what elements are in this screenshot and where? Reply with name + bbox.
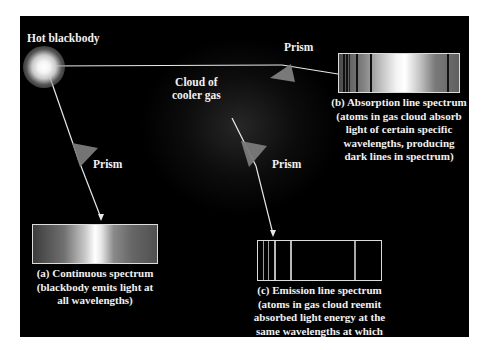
- caption-line: (atoms in gas cloud absorb: [325, 110, 469, 124]
- ray-to-emission: [256, 166, 273, 234]
- emission-line: [268, 241, 269, 280]
- emission-line: [290, 241, 292, 280]
- continuous-spectrum: [32, 224, 158, 264]
- caption-line: absorbed light energy at the: [242, 311, 397, 325]
- emission-line: [274, 241, 276, 280]
- diagram-frame: Hot blackbody Prism Prism Prism Cloud of…: [20, 16, 469, 337]
- caption-line: dark lines in spectrum): [325, 150, 469, 164]
- caption-line: all wavelengths): [20, 294, 170, 308]
- caption-line: (b) Absorption line spectrum: [325, 96, 469, 110]
- arrowhead-continuous: [98, 214, 104, 221]
- emission-line: [354, 241, 356, 280]
- blackbody-glow-icon: [23, 46, 65, 88]
- continuous-caption: (a) Continuous spectrum (blackbody emits…: [20, 267, 170, 308]
- ray-horizontal: [46, 65, 282, 66]
- absorption-line: [346, 54, 348, 92]
- prism-top-icon: [270, 64, 295, 82]
- absorption-line: [349, 54, 350, 92]
- absorption-line: [356, 54, 358, 92]
- absorption-line: [343, 54, 345, 92]
- absorption-line: [447, 54, 449, 92]
- caption-line: light of certain specific: [325, 123, 469, 137]
- cloud-label-line2: cooler gas: [172, 89, 221, 102]
- caption-line: (blackbody emits light at: [20, 281, 170, 295]
- prism-left-label: Prism: [93, 158, 122, 171]
- absorption-caption: (b) Absorption line spectrum (atoms in g…: [325, 96, 469, 164]
- prism-mid-label: Prism: [272, 158, 301, 171]
- absorption-line: [370, 54, 372, 92]
- prism-top-label: Prism: [284, 41, 313, 54]
- arrowhead-emission: [270, 230, 276, 237]
- emission-caption: (c) Emission line spectrum (atoms in gas…: [242, 284, 397, 337]
- caption-line: (c) Emission line spectrum: [242, 284, 397, 298]
- cloud-label: Cloud of cooler gas: [172, 76, 221, 102]
- emission-spectrum: [257, 240, 382, 281]
- blackbody-label: Hot blackbody: [27, 32, 100, 45]
- caption-line: (atoms in gas cloud reemit: [242, 298, 397, 312]
- caption-line: same wavelengths at which: [242, 325, 397, 338]
- emission-line: [263, 241, 264, 280]
- caption-line: (a) Continuous spectrum: [20, 267, 170, 281]
- absorption-spectrum: [338, 53, 460, 93]
- caption-line: wavelengths, producing: [325, 137, 469, 151]
- cloud-label-line1: Cloud of: [172, 76, 221, 89]
